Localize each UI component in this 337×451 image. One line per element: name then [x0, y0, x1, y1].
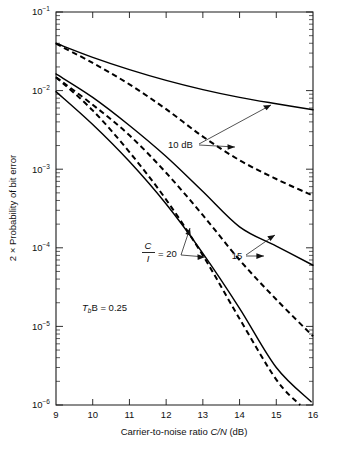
annotation-tsb-rest: B = 0.25: [91, 302, 127, 313]
chart-background: [0, 0, 337, 451]
annotation-ci-denominator: I: [147, 253, 150, 264]
x-tick-label: 9: [53, 409, 58, 420]
y-axis-title: 2 × Probability of bit error: [7, 155, 18, 261]
x-tick-label: 10: [87, 409, 98, 420]
x-tick-label: 16: [308, 409, 319, 420]
annotation-10db-label: 10 dB: [168, 139, 193, 150]
annotation-ci-numerator: C: [145, 240, 152, 251]
x-axis-title: Carrier-to-noise ratio C/N (dB): [121, 426, 248, 437]
bit-error-rate-chart: 10−110−210−310−410−510−6 910111213141516…: [0, 0, 337, 451]
x-tick-label: 13: [198, 409, 209, 420]
annotation-15-label: 15: [232, 250, 243, 261]
chart-svg: 10−110−210−310−410−510−6 910111213141516…: [0, 0, 337, 451]
x-tick-label: 12: [161, 409, 172, 420]
x-axis-title-italic: C/N: [210, 426, 227, 437]
x-axis-title-part2: (dB): [227, 426, 248, 437]
x-tick-label: 14: [234, 409, 245, 420]
x-tick-label: 11: [124, 409, 134, 420]
x-tick-label: 15: [271, 409, 282, 420]
x-axis-title-part1: Carrier-to-noise ratio: [121, 426, 211, 437]
annotation-ci-value: = 20: [158, 248, 177, 259]
